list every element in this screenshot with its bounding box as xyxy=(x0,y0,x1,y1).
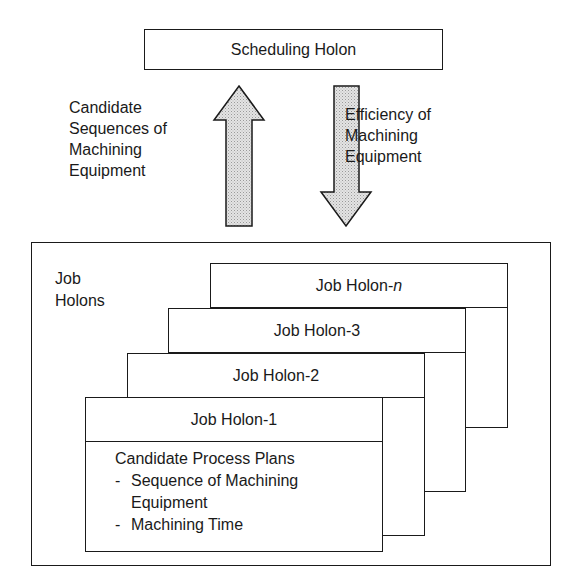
bullet-text: Sequence of Machining Equipment xyxy=(131,470,298,514)
job-holon-1-card: Job Holon-1 Candidate Process Plans - Se… xyxy=(85,397,383,552)
title-text: Job Holon-3 xyxy=(274,322,360,340)
label-line: Equipment xyxy=(345,146,431,167)
bullet-line: Equipment xyxy=(131,492,298,514)
label-line: Sequences of xyxy=(69,118,167,139)
bullet-dash: - xyxy=(115,514,131,536)
label-line: Candidate xyxy=(69,97,167,118)
job-holon-2-title: Job Holon-2 xyxy=(128,354,424,398)
label-line: Machining xyxy=(69,139,167,160)
bullet-line: Sequence of Machining xyxy=(131,470,298,492)
bullet-dash: - xyxy=(115,470,131,514)
title-prefix: Job Holon- xyxy=(316,277,393,295)
label-line: Equipment xyxy=(69,160,167,181)
bullet-item: - Sequence of Machining Equipment xyxy=(115,470,382,514)
job-holon-1-title: Job Holon-1 xyxy=(86,398,382,442)
bullet-line: Machining Time xyxy=(131,514,243,536)
efficiency-label: Efficiency of Machining Equipment xyxy=(345,104,431,167)
title-text: Job Holon-2 xyxy=(233,367,319,385)
job-holons-label: Job Holons xyxy=(55,268,105,312)
bullet-item: - Machining Time xyxy=(115,514,382,536)
candidate-sequences-label: Candidate Sequences of Machining Equipme… xyxy=(69,97,167,181)
label-line: Job xyxy=(55,268,105,290)
title-text: Job Holon-1 xyxy=(191,411,277,429)
job-holon-3-title: Job Holon-3 xyxy=(169,309,465,353)
label-line: Holons xyxy=(55,290,105,312)
up-arrow-icon xyxy=(214,86,264,226)
job-holon-n-title: Job Holon-n xyxy=(211,264,507,308)
job-holon-1-body: Candidate Process Plans - Sequence of Ma… xyxy=(86,442,382,536)
bullet-text: Machining Time xyxy=(131,514,243,536)
process-plans-heading: Candidate Process Plans xyxy=(115,448,382,470)
label-line: Efficiency of xyxy=(345,104,431,125)
title-suffix: n xyxy=(393,277,402,295)
label-line: Machining xyxy=(345,125,431,146)
